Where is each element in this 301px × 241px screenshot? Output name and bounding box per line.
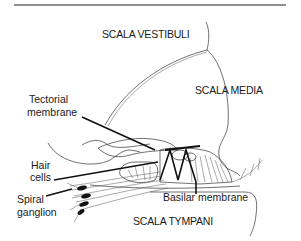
label-tectorial-1: Tectorial [29,93,68,105]
cochlea-diagram: SCALA VESTIBULI SCALA MEDIA SCALA TYMPAN… [0,0,301,241]
label-tectorial-2: membrane [27,106,77,118]
tectorial-membrane-shape [98,138,178,156]
inner-sulcus-cells [128,166,150,180]
pillar-cells [160,150,196,182]
label-spiral-2: ganglion [17,206,57,218]
label-hair-1: Hair [31,159,51,171]
outer-wall-upper [206,22,209,50]
hensen-cells [232,158,262,182]
leader-hair-cells [54,162,158,180]
label-scala-tympani: SCALA TYMPANI [133,215,213,227]
basilar-membrane [90,185,240,188]
corti-cell-lines [190,155,228,182]
reissners-membrane [105,50,207,125]
label-hair-2: cells [30,171,51,183]
label-spiral-1: Spiral [17,193,44,205]
reissners-membrane-inner [108,52,207,126]
label-scala-media: SCALA MEDIA [195,84,263,96]
label-basilar: Basilar membrane [163,191,248,203]
spiral-limbus [48,143,140,164]
leader-tectorial [82,117,155,150]
leader-spiral-ganglion [46,189,72,196]
label-scala-vestibuli: SCALA VESTIBULI [102,28,189,40]
outer-wall-lower [207,50,240,176]
